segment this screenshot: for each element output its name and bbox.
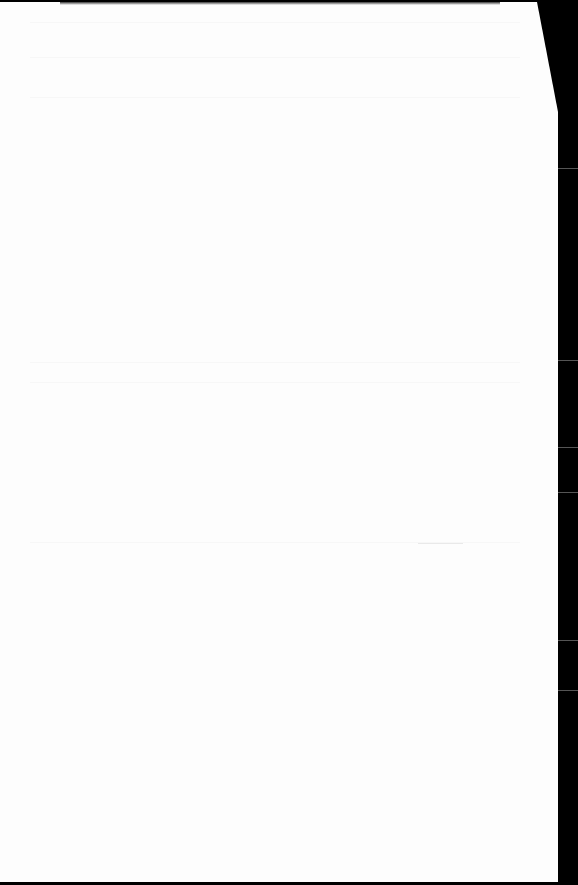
edge-mark [558, 447, 578, 448]
bleed-through-line [30, 22, 520, 23]
edge-mark [558, 360, 578, 361]
bleed-through-line [30, 382, 520, 383]
edge-mark [558, 640, 578, 641]
edge-mark [558, 168, 578, 169]
edge-mark [558, 690, 578, 691]
blank-page [0, 2, 558, 882]
faint-rule [418, 543, 463, 544]
edge-mark [558, 492, 578, 493]
bleed-through-line [30, 97, 520, 98]
bleed-through-line [30, 362, 520, 363]
page-top-shadow [60, 2, 500, 5]
bleed-through-line [30, 57, 520, 58]
